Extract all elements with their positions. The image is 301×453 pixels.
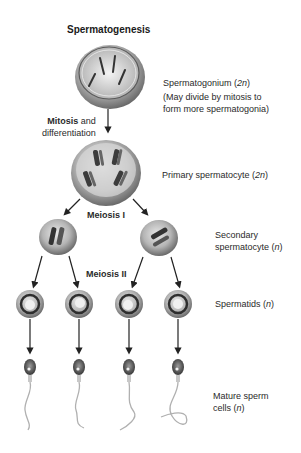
- spermatogenesis-diagram: [0, 0, 301, 453]
- mature-line1: Mature sperm: [213, 390, 269, 402]
- primary-spermatocyte-cell: [71, 140, 141, 206]
- spermatogonium-name: Spermatogonium: [163, 78, 232, 88]
- primary-name: Primary spermatocyte: [162, 170, 250, 180]
- spermatogonium-cell: [75, 45, 145, 109]
- spermatogonium-ploidy: 2n: [237, 78, 247, 88]
- secondary-line1: Secondary: [215, 229, 283, 241]
- label-primary-spermatocyte: Primary spermatocyte (2n): [162, 169, 268, 181]
- label-meiosis-2: Meiosis II: [86, 268, 127, 280]
- spermatids-group: [16, 290, 192, 318]
- label-spermatids: Spermatids (n): [215, 298, 274, 310]
- mature-ploidy: n: [237, 403, 242, 413]
- mitosis-bold: Mitosis: [47, 116, 78, 126]
- secondary-spermatocyte-cell-right: [140, 220, 178, 256]
- label-spermatogonium: Spermatogonium (2n): [163, 77, 250, 89]
- mitosis-rest: and: [78, 116, 96, 126]
- label-meiosis-1: Meiosis I: [87, 209, 125, 221]
- label-secondary-spermatocyte: Secondary spermatocyte (n): [215, 229, 283, 253]
- label-mature-sperm: Mature sperm cells (n): [213, 390, 269, 414]
- mitosis-line2: differentiation: [42, 127, 96, 139]
- label-mitosis: Mitosis and differentiation: [42, 115, 96, 139]
- secondary-line2: spermatocyte: [215, 242, 269, 252]
- primary-ploidy: 2n: [255, 170, 265, 180]
- spermatids-ploidy: n: [266, 299, 271, 309]
- mature-line2: cells: [213, 403, 231, 413]
- spermatids-name: Spermatids: [215, 299, 261, 309]
- spermatogonium-note-line2: form more spermatogonia): [163, 103, 269, 115]
- secondary-spermatocyte-cell-left: [39, 219, 77, 255]
- secondary-ploidy: n: [275, 242, 280, 252]
- mature-sperm-group: [24, 359, 187, 430]
- spermatogonium-note-line1: (May divide by mitosis to: [163, 91, 269, 103]
- label-spermatogonium-note: (May divide by mitosis to form more sper…: [163, 91, 269, 115]
